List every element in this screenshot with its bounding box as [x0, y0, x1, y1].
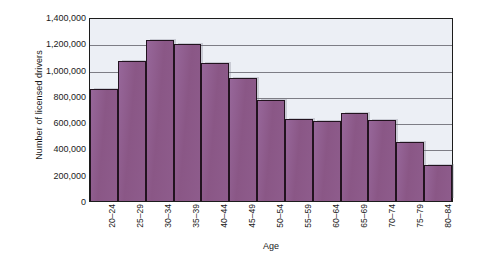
bar[interactable] — [174, 44, 202, 201]
plot-area — [89, 18, 453, 202]
bar-slot — [285, 19, 313, 201]
x-tick-slot: 60–64 — [313, 204, 341, 242]
x-tick-slot: 30–34 — [145, 204, 173, 242]
x-tick-slot: 75–79 — [397, 204, 425, 242]
bar-slot — [118, 19, 146, 201]
bar-slot — [201, 19, 229, 201]
x-tick-slot: 40–44 — [201, 204, 229, 242]
bar-slot — [396, 19, 424, 201]
bars-layer — [90, 19, 452, 201]
y-tick-label: 400,000 — [24, 145, 86, 154]
bar[interactable] — [424, 165, 452, 201]
y-tick-label: 600,000 — [24, 119, 86, 128]
bar[interactable] — [201, 63, 229, 201]
bar[interactable] — [90, 89, 118, 201]
bar[interactable] — [368, 120, 396, 201]
y-tick-label: 1,000,000 — [24, 66, 86, 75]
y-tick-label: 0 — [24, 198, 86, 207]
x-tick-slot: 35–39 — [173, 204, 201, 242]
y-tick-label: 1,400,000 — [24, 14, 86, 23]
bar[interactable] — [341, 113, 369, 201]
bar-slot — [368, 19, 396, 201]
bar-slot — [174, 19, 202, 201]
bar-slot — [90, 19, 118, 201]
y-tick-label: 800,000 — [24, 92, 86, 101]
bar[interactable] — [313, 121, 341, 201]
y-tick-label: 200,000 — [24, 171, 86, 180]
bar[interactable] — [257, 100, 285, 201]
bar[interactable] — [229, 78, 257, 201]
x-axis-tick-labels: 20–2425–2930–3435–3940–4445–4950–5455–59… — [89, 204, 453, 242]
bar-chart-figure: Number of licensed drivers 0200,000400,0… — [0, 0, 494, 266]
x-tick-slot: 25–29 — [117, 204, 145, 242]
x-tick-slot: 80–84 — [425, 204, 453, 242]
x-tick-label: 80–84 — [443, 204, 454, 228]
bar[interactable] — [396, 142, 424, 201]
bar[interactable] — [285, 119, 313, 201]
bar-slot — [341, 19, 369, 201]
bar[interactable] — [118, 61, 146, 201]
x-tick-slot: 70–74 — [369, 204, 397, 242]
bar[interactable] — [146, 40, 174, 201]
y-tick-label: 1,200,000 — [24, 40, 86, 49]
x-tick-slot: 20–24 — [89, 204, 117, 242]
bar-slot — [424, 19, 452, 201]
bar-slot — [257, 19, 285, 201]
x-tick-slot: 50–54 — [257, 204, 285, 242]
bar-slot — [229, 19, 257, 201]
bar-slot — [313, 19, 341, 201]
x-axis-title: Age — [89, 241, 453, 251]
x-tick-slot: 65–69 — [341, 204, 369, 242]
y-axis-tick-labels: 0200,000400,000600,000800,0001,000,0001,… — [24, 0, 86, 266]
x-tick-slot: 45–49 — [229, 204, 257, 242]
bar-slot — [146, 19, 174, 201]
x-tick-slot: 55–59 — [285, 204, 313, 242]
